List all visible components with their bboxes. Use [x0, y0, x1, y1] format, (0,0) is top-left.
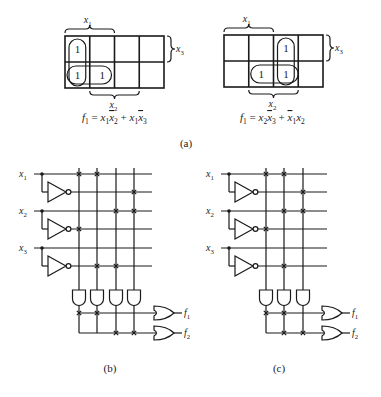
or-gate-f1: [154, 306, 174, 320]
and-gate-1: [91, 290, 104, 306]
input-label-x2-text: x2: [205, 205, 214, 218]
kmap-cell-value: 1: [283, 42, 289, 54]
or-gate-f1: [322, 306, 342, 320]
pla-figure: 111x1x3x2111x1x3x2f1 = x1x2 + x1x3f1 = x…: [0, 0, 381, 397]
input-label-x3-text: x3: [18, 242, 27, 255]
kmap-label-x2-text: x2: [268, 98, 277, 111]
kmap-a2: 111x1x3x2: [224, 13, 343, 111]
inverter-bubble: [66, 190, 71, 195]
inverter-triangle: [235, 182, 253, 202]
output-label-f1-text: f1: [184, 307, 190, 320]
inverter-triangle: [235, 256, 253, 276]
inverter-bubble: [253, 227, 258, 232]
input-label-x1: x1: [205, 168, 214, 181]
caption-a: (a): [180, 137, 193, 150]
or-gate-f2: [322, 326, 342, 340]
inverter-triangle: [48, 256, 66, 276]
caption-c: (c): [273, 362, 286, 375]
kmap-cell-value: 1: [258, 68, 264, 80]
inverter-bubble: [66, 264, 71, 269]
kmap-cell-value: 1: [75, 69, 81, 81]
output-label-f2: f2: [352, 327, 359, 340]
kmap-cell-value: 1: [75, 43, 81, 55]
input-label-x2: x2: [18, 205, 27, 218]
and-gate-3: [128, 290, 141, 306]
output-label-f2-text: f2: [184, 327, 191, 340]
input-label-x3: x3: [18, 242, 27, 255]
input-label-x1: x1: [18, 168, 27, 181]
input-label-x2: x2: [205, 205, 214, 218]
kmap-label-x3-text: x3: [334, 42, 343, 55]
inverter-triangle: [48, 219, 66, 239]
and-gate-0: [73, 290, 86, 306]
kmap-cell-value: 1: [99, 69, 105, 81]
pla-c: x1x2x3f1f2(c): [205, 168, 359, 375]
and-gate-2: [297, 290, 310, 306]
output-label-f1: f1: [352, 307, 358, 320]
input-label-x1-text: x1: [18, 168, 27, 181]
output-label-f2: f2: [184, 327, 191, 340]
x2-brace: [249, 90, 299, 98]
equation-a1: f1 = x1x2 + x1x3: [82, 111, 147, 126]
and-gate-0: [260, 290, 273, 306]
input-label-x3-text: x3: [205, 242, 214, 255]
output-label-f1: f1: [184, 307, 190, 320]
input-label-x2-text: x2: [18, 205, 27, 218]
kmap-label-x3: x3: [334, 42, 343, 55]
x3-brace: [326, 35, 334, 61]
output-label-f2-text: f2: [352, 327, 359, 340]
equation-a2: f1 = x2x3 + x1x2: [240, 111, 305, 126]
kmap-label-x1: x1: [83, 14, 92, 27]
kmap-label-x1: x1: [242, 13, 251, 26]
kmap-cell-value: 1: [283, 68, 289, 80]
kmap-a1: 111x1x3x2: [65, 14, 184, 112]
kmap-label-x3: x3: [175, 43, 184, 56]
inverter-bubble: [253, 264, 258, 269]
input-label-x3: x3: [205, 242, 214, 255]
inverter-bubble: [253, 190, 258, 195]
kmap-label-x3-text: x3: [175, 43, 184, 56]
output-label-f1-text: f1: [352, 307, 358, 320]
kmap-label-x1-text: x1: [83, 14, 92, 27]
and-gate-1: [278, 290, 291, 306]
inverter-triangle: [235, 219, 253, 239]
or-gate-f2: [154, 326, 174, 340]
pla-b: x1x2x3f1f2(b): [18, 168, 191, 375]
x3-brace: [167, 36, 175, 62]
inverter-triangle: [48, 182, 66, 202]
kmap-label-x2: x2: [268, 98, 277, 111]
x2-brace: [90, 91, 140, 99]
input-label-x1-text: x1: [205, 168, 214, 181]
caption-b: (b): [104, 362, 117, 375]
inverter-bubble: [66, 227, 71, 232]
kmap-label-x1-text: x1: [242, 13, 251, 26]
and-gate-2: [110, 290, 123, 306]
